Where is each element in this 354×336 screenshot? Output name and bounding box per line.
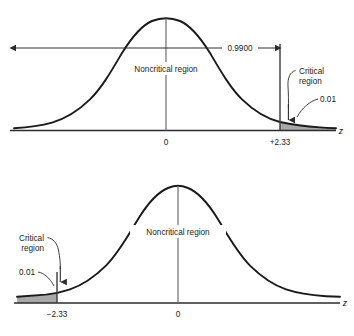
alpha-label-top: 0.01: [320, 95, 336, 104]
axis-label-top: z: [338, 126, 344, 136]
critical-region-leader-bottom: [48, 238, 61, 270]
panel-right-tailed-test: 0.9900 Noncritical region Critical regio…: [0, 0, 354, 168]
panel-left-tailed-test: Noncritical region Critical region 0.01 …: [0, 168, 354, 336]
alpha-leader-top: [297, 99, 318, 117]
critical-region-label-top-line1: Critical: [299, 67, 324, 76]
critical-tick-label-bottom: −2.33: [47, 310, 68, 319]
noncritical-region-label-bottom: Noncritical region: [146, 228, 210, 237]
axis-label-bottom: z: [342, 298, 348, 308]
noncritical-region-label-top: Noncritical region: [134, 65, 198, 74]
left-tailed-chart: Noncritical region Critical region 0.01 …: [0, 168, 354, 336]
right-tailed-chart: 0.9900 Noncritical region Critical regio…: [0, 0, 354, 168]
statistics-figure: 0.9900 Noncritical region Critical regio…: [0, 0, 354, 336]
critical-region-label-bottom-line2: region: [21, 244, 44, 253]
alpha-label-bottom: 0.01: [19, 268, 35, 277]
critical-region-label-bottom-line1: Critical: [19, 234, 44, 243]
critical-region-label-top-line2: region: [299, 77, 322, 86]
alpha-leader-bottom: [38, 272, 54, 286]
confidence-label: 0.9900: [227, 44, 252, 53]
center-tick-label-top: 0: [164, 138, 169, 147]
critical-tick-label-top: +2.33: [270, 138, 291, 147]
critical-region-leader-top: [288, 71, 296, 109]
center-tick-label-bottom: 0: [176, 310, 181, 319]
